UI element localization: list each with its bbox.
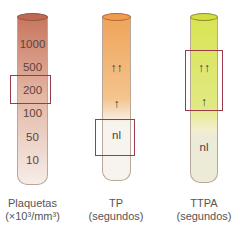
tp-caption: TP (segundos): [86, 197, 146, 223]
ttpa-highlight-box: [185, 50, 223, 111]
scale-1000: 1000: [18, 38, 47, 50]
scale-50: 50: [18, 131, 47, 143]
tp-tube-cap: [102, 13, 131, 21]
tp-tube: ↑↑ ↑ nl: [102, 17, 131, 181]
tp-double-up-arrow: ↑↑: [103, 61, 130, 75]
ttpa-tube-cap: [190, 13, 218, 21]
ttpa-caption: TTPA (segundos): [174, 197, 234, 223]
platelets-highlight-box: [10, 75, 51, 104]
scale-500: 500: [18, 61, 47, 73]
tp-up-arrow: ↑: [103, 97, 130, 111]
platelets-caption: Plaquetas (×10³/mm³): [0, 197, 65, 223]
scale-100: 100: [18, 107, 47, 119]
scale-10: 10: [18, 154, 47, 166]
tp-highlight-box: [95, 119, 135, 156]
platelets-tube-cap: [17, 13, 48, 21]
ttpa-normal-label: nl: [191, 141, 217, 153]
